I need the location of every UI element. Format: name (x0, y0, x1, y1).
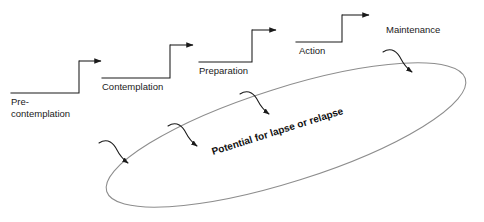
relapse-arrow-2 (168, 124, 197, 146)
relapse-label-group: Potential for lapse or relapse (210, 105, 345, 157)
step-action: Action (296, 15, 369, 56)
relapse-arrow-3 (240, 92, 269, 114)
stages-of-change-diagram: Pre- contemplation Contemplation Prepara… (0, 0, 484, 222)
step-contemplation-riser (102, 45, 170, 78)
stage-label-contemplation: Contemplation (102, 81, 163, 92)
relapse-arrow-1 (99, 141, 128, 163)
step-preparation-riser (199, 30, 252, 62)
step-maintenance: Maintenance (386, 24, 440, 35)
stage-label-action: Action (299, 45, 325, 56)
stage-label-precontemplation-line2: contemplation (11, 108, 70, 119)
step-precontemplation: Pre- contemplation (11, 61, 101, 119)
step-preparation: Preparation (199, 30, 276, 76)
relapse-label: Potential for lapse or relapse (210, 105, 345, 157)
relapse-arrows (99, 50, 412, 163)
relapse-arrow-4 (383, 50, 412, 72)
stage-label-maintenance: Maintenance (386, 24, 440, 35)
step-precontemplation-riser (11, 61, 79, 93)
diagram-canvas: Pre- contemplation Contemplation Prepara… (0, 0, 484, 222)
stage-label-preparation: Preparation (199, 65, 248, 76)
stage-label-precontemplation-line1: Pre- (11, 96, 29, 107)
step-contemplation: Contemplation (102, 45, 193, 92)
step-action-riser (296, 15, 342, 42)
